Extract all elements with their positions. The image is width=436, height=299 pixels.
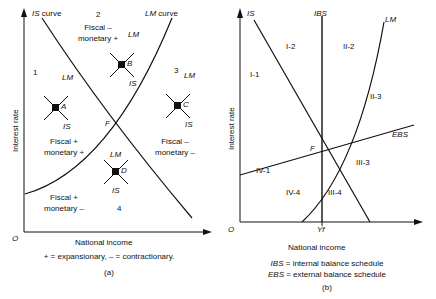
zone-1-line2: monetary +	[28, 147, 100, 158]
lm-curve-label-a-roman: curve	[156, 9, 178, 18]
panel-b-id: (b)	[218, 283, 436, 292]
point-a-lm-label: LM	[62, 73, 73, 83]
panel-a-note: + = expansionary, – = contractionary.	[0, 252, 218, 261]
zone-number-3: 3	[174, 66, 178, 76]
intersection-label-a: F	[105, 119, 110, 129]
point-d-is-label: IS	[112, 186, 120, 196]
x-axis-label-b: National income	[288, 243, 345, 253]
region-label-ii-2: II-2	[343, 42, 355, 52]
zone-number-2: 2	[96, 10, 100, 20]
y-axis-arrow-b	[237, 8, 243, 18]
figure-root: Interest rate O National income IS curve…	[0, 0, 436, 299]
region-label-iv-1: IV-1	[256, 166, 270, 176]
zone-2-line2: monetary +	[62, 33, 134, 44]
panel-a-id: (a)	[0, 268, 218, 277]
y-axis-label-b: Interest rate	[227, 107, 236, 150]
ibs-legend-abbr: IBS	[271, 259, 284, 268]
panel-b-graphics	[218, 0, 436, 299]
zone-3-text: Fiscal – monetary –	[139, 136, 211, 158]
ibs-legend-text: = internal balance schedule	[284, 259, 384, 268]
point-b-label: B	[127, 59, 132, 69]
ebs-legend-line: EBS = external balance schedule	[218, 270, 436, 279]
zone-1-line1: Fiscal +	[28, 136, 100, 147]
x-axis-label-a: National income	[75, 238, 132, 248]
ibs-curve-label-b: IBS	[314, 9, 327, 19]
point-a-is-label: IS	[63, 122, 71, 132]
region-label-i-1: I-1	[250, 70, 259, 80]
region-label-ii-3: II-3	[370, 92, 382, 102]
point-c-label: C	[183, 100, 189, 110]
point-d-label: D	[121, 166, 127, 176]
x-axis-arrow-a	[203, 229, 212, 235]
y-axis-arrow-a	[21, 8, 27, 17]
origin-label-b: O	[228, 225, 234, 235]
is-curve-label-a-italic: IS	[32, 9, 40, 18]
ebs-legend-text: = external balance schedule	[284, 270, 386, 279]
is-curve-label-a: IS curve	[32, 9, 61, 19]
region-label-iii-4: III-4	[328, 188, 342, 198]
region-label-i-2: I-2	[286, 42, 295, 52]
is-curve-label-a-roman: curve	[40, 9, 62, 18]
lm-curve-b	[302, 22, 384, 222]
yf-axis-tick-label: Yf	[317, 225, 325, 235]
region-label-iii-3: III-3	[356, 158, 370, 168]
zone-3-line2: monetary –	[139, 147, 211, 158]
point-c-is-label: IS	[185, 120, 193, 130]
zone-number-1: 1	[33, 68, 37, 78]
region-label-iv-4: IV-4	[286, 188, 300, 198]
zone-2-text: Fiscal – monetary +	[62, 22, 134, 44]
point-b-lm-label: LM	[128, 30, 139, 40]
zone-1-text: Fiscal + monetary +	[28, 136, 100, 158]
point-c-lm-label: LM	[184, 71, 195, 81]
x-axis-arrow-b	[414, 219, 423, 225]
panel-b: Interest rate O Yf National income IS IB…	[218, 0, 436, 299]
zone-3-line1: Fiscal –	[139, 136, 211, 147]
point-a-label: A	[61, 102, 66, 112]
zone-2-line1: Fiscal –	[62, 22, 134, 33]
origin-label-a: O	[12, 234, 18, 244]
point-b-is-label: IS	[129, 79, 137, 89]
intersection-label-b: F	[310, 144, 315, 154]
zone-4-line1: Fiscal +	[28, 192, 100, 203]
zone-4-text: Fiscal + monetary –	[28, 192, 100, 214]
zone-number-4: 4	[117, 204, 121, 214]
ebs-curve-label-b: EBS	[392, 130, 408, 140]
zone-4-line2: monetary –	[28, 203, 100, 214]
lm-curve-label-a: LM curve	[145, 9, 178, 19]
ibs-legend-line: IBS = internal balance schedule	[218, 259, 436, 268]
lm-curve-label-b: LM	[385, 15, 396, 25]
is-curve-label-b: IS	[247, 9, 255, 19]
lm-curve-label-a-italic: LM	[145, 9, 156, 18]
y-axis-label-a: Interest rate	[11, 109, 20, 152]
ebs-legend-abbr: EBS	[268, 270, 284, 279]
panel-a: Interest rate O National income IS curve…	[0, 0, 218, 299]
point-d-lm-label: LM	[110, 150, 121, 160]
